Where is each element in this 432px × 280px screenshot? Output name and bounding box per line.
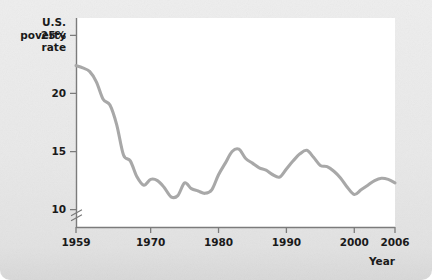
x-tick-label: 1959: [61, 236, 90, 248]
y-axis-title-line: poverty: [20, 29, 66, 41]
plot-area-background: [76, 18, 395, 227]
y-axis-title-line: rate: [42, 41, 66, 53]
y-tick-label: 10: [51, 203, 66, 215]
y-tick-label: 20: [51, 87, 66, 99]
x-tick-label: 2006: [380, 236, 409, 248]
x-tick-label: 1970: [136, 236, 165, 248]
y-axis-title-line: U.S.: [42, 16, 66, 28]
x-tick-label: 1980: [204, 236, 233, 248]
x-axis-title: Year: [368, 255, 396, 267]
x-tick-label: 2000: [340, 236, 369, 248]
poverty-rate-line-chart: 10152025% 195919701980199020002006 U.S.p…: [0, 0, 432, 280]
y-tick-label: 15: [51, 145, 66, 157]
x-tick-label: 1990: [272, 236, 301, 248]
chart-figure: 10152025% 195919701980199020002006 U.S.p…: [0, 0, 432, 280]
